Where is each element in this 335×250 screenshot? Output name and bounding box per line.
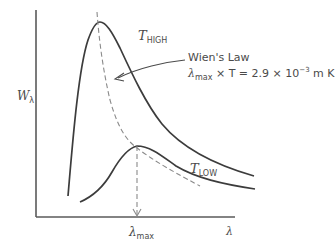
t-low-label: TLOW — [190, 162, 217, 175]
y-axis-label: Wλ — [17, 90, 34, 102]
t-high-label: THIGH — [138, 29, 167, 42]
x-axis-label: λ — [226, 226, 233, 237]
t-high-curve — [68, 22, 254, 196]
lambda-max-label: λmax — [129, 226, 154, 238]
wien-law-formula: λmax × T = 2.9 × 10−3 m K — [188, 68, 335, 79]
t-low-curve — [80, 146, 255, 202]
annotation-pointer-line — [118, 60, 185, 78]
wien-law-title: Wien's Law — [188, 52, 250, 63]
